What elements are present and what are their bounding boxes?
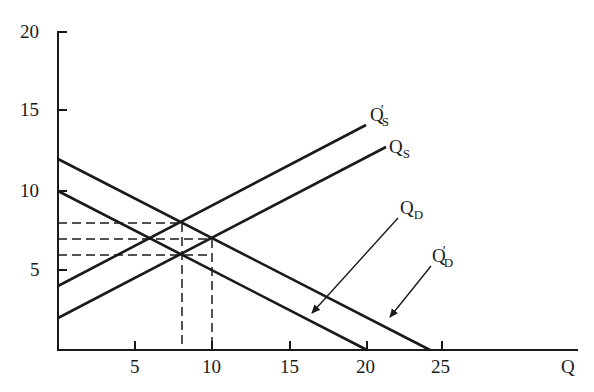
curves [58,125,430,350]
label-qd-main: Q [400,197,414,218]
y-tick-label-5: 5 [30,260,40,279]
x-tick-label-25: 25 [431,357,450,376]
label-qd: QD [400,198,423,217]
label-qd-prime: Q′D [432,246,453,265]
supply-line-qs [58,147,386,318]
x-tick-label-5: 5 [130,357,140,376]
label-qd-prime-sub: D [444,255,453,270]
dashed-reference-lines [58,223,212,350]
y-tick-label-20: 20 [20,22,39,41]
axes [57,31,578,351]
x-tick-label-20: 20 [356,357,375,376]
label-qs-main: Q [389,136,403,157]
arrow-qd-prime [390,266,431,317]
annotation-arrows [312,218,431,317]
y-tick-label-15: 15 [20,100,39,119]
label-qs: QS [389,137,410,156]
x-tick-label-15: 15 [280,357,299,376]
label-qs-sub: S [403,146,410,161]
label-qs-prime: Q′S [370,105,389,124]
label-qd-sub: D [414,207,423,222]
y-tick-label-10: 10 [20,181,39,200]
x-axis-label: Q [561,357,575,376]
label-qs-prime-sub: S [382,114,389,129]
x-tick-label-10: 10 [202,357,221,376]
arrow-qd [312,218,398,313]
supply-demand-chart [0,0,594,392]
